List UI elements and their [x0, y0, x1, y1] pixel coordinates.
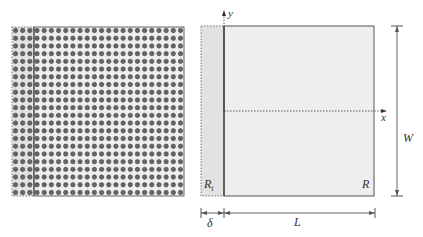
- particle-dot: [85, 190, 89, 194]
- particle-dot: [150, 67, 154, 71]
- particle-dot: [56, 59, 60, 63]
- particle-dot: [128, 75, 132, 79]
- particle-dot: [28, 159, 32, 163]
- particle-dot: [20, 152, 24, 156]
- particle-dot: [107, 51, 111, 55]
- particle-dot: [107, 44, 111, 48]
- particle-dot: [99, 129, 103, 133]
- particle-dot: [92, 82, 96, 86]
- particle-dot: [171, 44, 175, 48]
- particle-dot: [42, 36, 46, 40]
- particle-dot: [121, 82, 125, 86]
- particle-dot: [99, 82, 103, 86]
- particle-dot: [150, 90, 154, 94]
- particle-dot: [128, 183, 132, 187]
- particle-dot: [128, 144, 132, 148]
- particle-dot: [85, 59, 89, 63]
- particle-dot: [20, 36, 24, 40]
- particle-dot: [28, 59, 32, 63]
- particle-dot: [85, 67, 89, 71]
- particle-dot: [150, 51, 154, 55]
- particle-dot: [42, 75, 46, 79]
- right-panel: y x Rt R W δ L: [201, 7, 414, 230]
- particle-dot: [85, 121, 89, 125]
- particle-dot: [35, 183, 39, 187]
- particle-dot: [157, 159, 161, 163]
- particle-dot: [135, 121, 139, 125]
- particle-dot: [92, 75, 96, 79]
- particle-dot: [92, 98, 96, 102]
- particle-dot: [171, 159, 175, 163]
- particle-dot: [114, 113, 118, 117]
- particle-dot: [20, 144, 24, 148]
- particle-dot: [20, 51, 24, 55]
- particle-dot: [121, 67, 125, 71]
- particle-dot: [150, 44, 154, 48]
- particle-dot: [71, 51, 75, 55]
- particle-dot: [142, 121, 146, 125]
- particle-dot: [85, 113, 89, 117]
- particle-dot: [121, 136, 125, 140]
- particle-dot: [78, 36, 82, 40]
- particle-dot: [157, 167, 161, 171]
- particle-dot: [114, 90, 118, 94]
- particle-dot: [92, 144, 96, 148]
- particle-dot: [178, 190, 182, 194]
- particle-dot: [71, 90, 75, 94]
- particle-dot: [178, 175, 182, 179]
- particle-dot: [56, 75, 60, 79]
- particle-dot: [114, 59, 118, 63]
- particle-dot: [135, 152, 139, 156]
- particle-dot: [20, 136, 24, 140]
- particle-dot: [157, 59, 161, 63]
- particle-dot: [107, 90, 111, 94]
- particle-dot: [121, 113, 125, 117]
- particle-dot: [71, 36, 75, 40]
- particle-dot: [114, 121, 118, 125]
- particle-dot: [13, 36, 17, 40]
- particle-dot: [28, 105, 32, 109]
- particle-dot: [164, 159, 168, 163]
- particle-dot: [64, 98, 68, 102]
- particle-dot: [135, 129, 139, 133]
- particle-dot: [150, 36, 154, 40]
- particle-dot: [128, 121, 132, 125]
- particle-dot: [164, 190, 168, 194]
- particle-dot: [114, 129, 118, 133]
- particle-dot: [92, 152, 96, 156]
- particle-dot: [178, 183, 182, 187]
- particle-dot: [71, 59, 75, 63]
- particle-dot: [28, 82, 32, 86]
- particle-dot: [107, 175, 111, 179]
- particle-dot: [171, 113, 175, 117]
- particle-dot: [128, 113, 132, 117]
- particle-dot: [128, 67, 132, 71]
- particle-dot: [171, 190, 175, 194]
- particle-dot: [13, 75, 17, 79]
- particle-dot: [64, 113, 68, 117]
- particle-dot: [142, 67, 146, 71]
- particle-dot: [107, 36, 111, 40]
- diagram-canvas: y x Rt R W δ L: [0, 0, 423, 237]
- particle-dot: [92, 175, 96, 179]
- particle-dot: [20, 167, 24, 171]
- particle-dot: [178, 167, 182, 171]
- particle-dot: [13, 113, 17, 117]
- particle-dot: [164, 67, 168, 71]
- particle-dot: [20, 82, 24, 86]
- particle-dot: [71, 190, 75, 194]
- particle-dot: [42, 121, 46, 125]
- particle-dot: [114, 136, 118, 140]
- particle-dot: [78, 82, 82, 86]
- particle-dot: [78, 105, 82, 109]
- particle-dot: [64, 183, 68, 187]
- particle-dot: [85, 183, 89, 187]
- particle-dot: [85, 167, 89, 171]
- particle-dot: [150, 190, 154, 194]
- particle-dot: [157, 190, 161, 194]
- particle-dot: [78, 51, 82, 55]
- particle-dot: [35, 113, 39, 117]
- particle-dot: [107, 136, 111, 140]
- particle-dot: [56, 129, 60, 133]
- particle-dot: [135, 144, 139, 148]
